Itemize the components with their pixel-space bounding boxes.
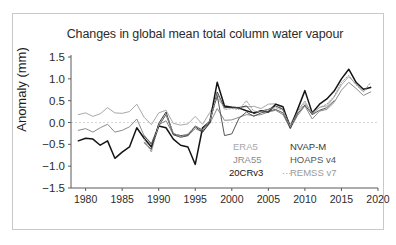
x-tick-label: 1985: [110, 193, 134, 205]
x-tick-label: 2020: [366, 193, 390, 205]
series-line-era5: [78, 77, 370, 125]
legend: ERA5JRA5520CRv3NVAP-MHOAPS v4···REMSS v7: [229, 141, 336, 178]
x-tick-label: 2000: [220, 193, 244, 205]
y-tick-labels: 1.51.00.50.0−0.5−1.0−1.5: [42, 51, 71, 194]
y-tick-label: 1.0: [49, 73, 65, 85]
x-tick-label: 1995: [184, 193, 208, 205]
legend-label-remss-v7: REMSS v7: [290, 167, 336, 178]
x-tick-label: 2010: [293, 193, 317, 205]
x-tick-label: 2015: [330, 193, 354, 205]
legend-label-era5: ERA5: [233, 141, 258, 152]
series-line-nvap-m: [144, 92, 298, 150]
series-lines: [78, 69, 370, 164]
y-tick-label: −1.5: [42, 182, 65, 194]
y-tick-label: −1.0: [42, 160, 65, 172]
legend-label-jra55: JRA55: [233, 154, 262, 165]
y-tick-label: 0.5: [49, 95, 65, 107]
x-tick-label: 1980: [74, 193, 98, 205]
y-tick-label: 0.0: [49, 117, 65, 129]
x-tick-label: 2005: [257, 193, 281, 205]
x-tick-label: 1990: [147, 193, 171, 205]
legend-label-hoaps-v4: HOAPS v4: [290, 154, 336, 165]
y-tick-label: −0.5: [42, 138, 65, 150]
legend-label-20crv3: 20CRv3: [229, 167, 263, 178]
plot-area: 1.51.00.50.0−0.5−1.0−1.5 198019851990199…: [0, 0, 396, 245]
figure-root: Changes in global mean total column wate…: [0, 0, 396, 245]
legend-label-nvap-m: NVAP-M: [290, 141, 326, 152]
y-tick-label: 1.5: [49, 51, 65, 63]
x-tick-labels: 198019851990199520002005201020152020: [74, 188, 390, 205]
series-line-20crv3: [78, 69, 370, 164]
